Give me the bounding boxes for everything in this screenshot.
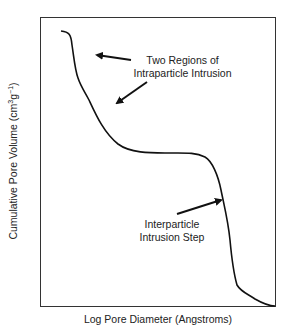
chart-canvas xyxy=(0,0,289,332)
y-axis-label-sup2: −1 xyxy=(7,86,14,94)
y-axis-label-base: Cumulative Pore Volume (cm xyxy=(7,104,19,240)
annotation-interparticle: Interparticle Intrusion Step xyxy=(132,218,212,244)
x-axis-label: Log Pore Diameter (Angstroms) xyxy=(40,313,276,325)
arrow-intraparticle-1 xyxy=(97,55,131,60)
annotation-interparticle-line2: Intrusion Step xyxy=(132,231,212,244)
y-axis-label: Cumulative Pore Volume (cm3g−1) xyxy=(7,82,20,239)
annotation-interparticle-line1: Interparticle xyxy=(132,218,212,231)
annotation-intraparticle: Two Regions of Intraparticle Intrusion xyxy=(130,54,235,80)
arrow-intraparticle-2 xyxy=(117,82,147,103)
y-axis-label-end: ) xyxy=(7,82,19,86)
y-axis-label-mid: g xyxy=(7,94,19,100)
y-axis-label-sup1: 3 xyxy=(7,100,14,104)
annotation-intraparticle-line2: Intraparticle Intrusion xyxy=(130,67,235,80)
annotation-intraparticle-line1: Two Regions of xyxy=(130,54,235,67)
arrow-interparticle xyxy=(177,200,221,214)
